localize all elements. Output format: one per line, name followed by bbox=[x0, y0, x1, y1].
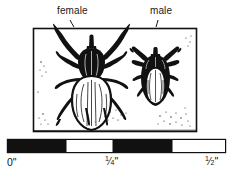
ruler-segment-3 bbox=[113, 140, 172, 152]
ruler-tick-label-quarter: 1⁄4" bbox=[105, 155, 118, 167]
ruler-segment-1 bbox=[8, 140, 66, 152]
ruler-tick-label-half: 1⁄2" bbox=[205, 155, 218, 167]
inch-mark: " bbox=[114, 155, 118, 167]
label-leader-lines bbox=[70, 20, 158, 27]
inch-mark: " bbox=[214, 155, 218, 167]
ruler-tick-label-zero: 0" bbox=[7, 157, 17, 168]
ruler-segment-4 bbox=[172, 140, 225, 152]
male-tick-drawing bbox=[130, 47, 182, 106]
ruler-segment-2 bbox=[66, 140, 113, 152]
female-tick-drawing bbox=[53, 24, 130, 130]
illustration-artwork bbox=[0, 0, 233, 140]
tick-illustration-figure: female male bbox=[0, 0, 233, 177]
